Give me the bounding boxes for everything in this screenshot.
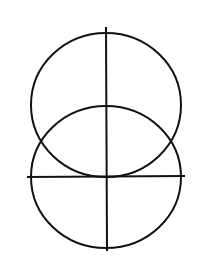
vertical-axis-line <box>106 27 107 251</box>
horizontal-axis-line <box>27 176 185 177</box>
two-circles-diagram <box>0 0 211 260</box>
